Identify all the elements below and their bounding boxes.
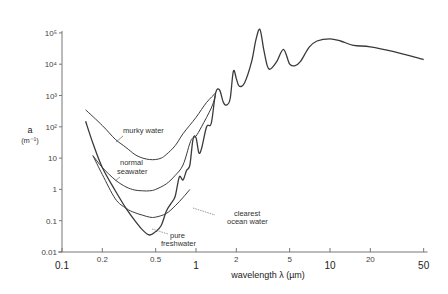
y-tick-label: 10³ — [45, 92, 57, 101]
leader-clearest-ocean-water — [193, 208, 215, 215]
annotation-clearest-ocean-water-2: ocean water — [227, 217, 268, 226]
annotation-normal-seawater-2: seawater — [117, 167, 148, 176]
x-tick-label: 50 — [418, 260, 430, 271]
annotations: a (m⁻¹) wavelength λ (µm) murky water no… — [21, 125, 305, 280]
y-tick-label: 10⁵ — [45, 29, 57, 38]
axes: 0.010.111010²10³10⁴10⁵0.10.20.5125102050 — [41, 29, 429, 271]
leader-normal-seawater — [115, 177, 120, 181]
y-tick-label: 10 — [48, 154, 57, 163]
absorption-chart: 0.010.111010²10³10⁴10⁵0.10.20.5125102050… — [0, 0, 448, 294]
y-tick-label: 1 — [53, 185, 58, 194]
x-tick-label: 0.1 — [55, 260, 69, 271]
x-tick-label: 20 — [366, 255, 375, 264]
y-axis-label: a — [27, 125, 32, 135]
x-tick-label: 0.5 — [150, 255, 162, 264]
y-tick-label: 10⁴ — [45, 60, 58, 69]
x-tick-label: 2 — [234, 255, 239, 264]
x-tick-label: 5 — [287, 255, 292, 264]
leader-murky-water — [116, 136, 123, 142]
x-tick-label: 0.2 — [97, 255, 109, 264]
annotation-normal-seawater-1: normal — [120, 158, 143, 167]
y-axis-unit: (m⁻¹) — [21, 136, 39, 145]
annotation-pure-freshwater-2: freshwater — [161, 239, 197, 248]
y-tick-label: 10² — [45, 123, 57, 132]
x-tick-label: 1 — [193, 260, 199, 271]
x-axis-label: wavelength λ (µm) — [230, 270, 305, 280]
y-tick-label: 0.1 — [46, 217, 58, 226]
annotation-murky-water: murky water — [123, 126, 164, 135]
x-tick-label: 10 — [324, 260, 336, 271]
y-tick-label: 0.01 — [41, 248, 57, 257]
